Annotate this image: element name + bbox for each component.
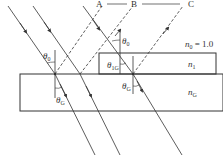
label-b: B <box>131 0 137 9</box>
label-thetag-right: θG <box>122 82 131 92</box>
label-ng: nG <box>188 88 197 98</box>
diagram-canvas <box>0 0 223 160</box>
reflected-ray-c <box>133 6 183 74</box>
label-theta0-left: θ0 <box>43 52 50 62</box>
arc-theta0-right <box>112 40 120 41</box>
intersection-right <box>132 73 134 75</box>
reflected-ray-c-arrow <box>163 28 168 34</box>
arc-theta0-left <box>47 62 55 63</box>
ray-1-arrow <box>20 23 26 32</box>
label-thetag-left: θG <box>56 96 65 106</box>
reflected-ray-a <box>55 6 102 74</box>
ray-1 <box>8 6 55 74</box>
ray-2-arrow <box>44 22 50 31</box>
ray-3-arrow <box>93 20 99 29</box>
label-theta1g: θ1G <box>107 61 119 71</box>
arc-thetag-left <box>55 87 62 88</box>
refraction-diagram: A B C n0 = 1.0 n1 nG θ0 θ0 θ1G θG θG <box>0 0 223 160</box>
label-c: C <box>188 0 194 9</box>
reflected-ray-b-arrow <box>115 30 120 36</box>
arc-thetag-right <box>133 85 139 86</box>
label-n1: n1 <box>188 60 196 70</box>
arc-theta1g <box>120 63 126 64</box>
ray-2-glass-arrow <box>86 86 91 96</box>
ray-1-glass-arrow <box>60 84 66 96</box>
intersection-left <box>54 73 56 75</box>
ray-2 <box>33 6 80 74</box>
ray-3-glass <box>133 74 182 155</box>
label-theta0-right: θ0 <box>122 37 129 47</box>
label-a: A <box>96 0 103 9</box>
label-n0: n0 = 1.0 <box>185 40 213 50</box>
